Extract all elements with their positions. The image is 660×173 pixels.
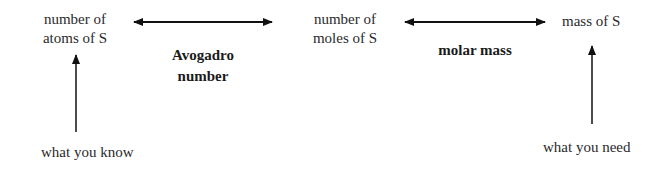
edge-label-avogadro-line1: Avogadro [160,45,246,66]
node-atoms: number of atoms of S [36,10,114,48]
edge-label-avogadro-line2: number [160,66,246,87]
conversion-diagram: number of atoms of S Avogadro number num… [0,0,660,173]
edge-label-avogadro: Avogadro number [160,45,246,87]
annotation-what-you-know: what you know [41,143,134,162]
edge-label-molar-mass: molar mass [425,41,525,60]
node-moles: number of moles of S [306,10,384,48]
node-moles-line1: number of [306,10,384,29]
node-atoms-line1: number of [36,10,114,29]
edge-label-molar-mass-text: molar mass [425,41,525,60]
node-moles-line2: moles of S [306,29,384,48]
node-atoms-line2: atoms of S [36,29,114,48]
node-mass-line1: mass of S [562,12,620,31]
node-mass: mass of S [562,12,620,31]
annotation-what-you-need: what you need [543,138,630,157]
